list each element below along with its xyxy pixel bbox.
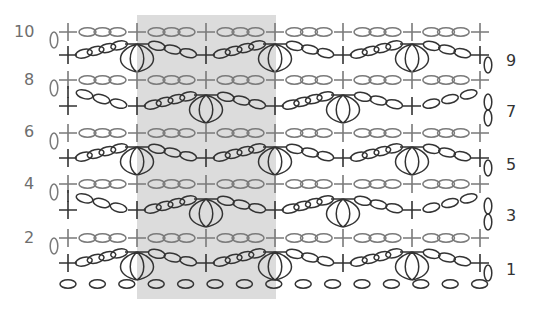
chain-symbol (385, 98, 403, 110)
single-crochet-symbol (471, 254, 489, 272)
shell-cluster-symbol (396, 252, 429, 280)
shell-cluster-symbol (396, 147, 429, 175)
single-crochet-symbol (334, 71, 352, 89)
chain-symbol (75, 256, 93, 268)
chain-symbol (373, 250, 391, 262)
turning-chain-symbol (484, 160, 492, 176)
chain-symbol (373, 145, 391, 157)
chain-symbol (441, 93, 460, 105)
chain-symbol (285, 143, 303, 155)
foundation-chain-symbol (119, 280, 135, 288)
single-crochet-symbol (403, 97, 421, 115)
single-crochet-symbol (59, 97, 77, 115)
single-crochet-symbol (59, 124, 77, 142)
chain-symbol (282, 203, 300, 215)
chain-symbol (293, 96, 311, 108)
chain-symbol (350, 151, 368, 163)
foundation-chain-symbol (325, 280, 341, 288)
chain-symbol (361, 148, 379, 160)
foundation-chain-symbol (383, 280, 399, 288)
shell-cluster-symbol (327, 95, 360, 123)
shell-cluster-symbol (396, 44, 429, 72)
foundation-chain-symbol (354, 280, 370, 288)
turning-chain-symbol (50, 238, 58, 254)
row-label-7: 7 (506, 104, 516, 120)
chain-symbol (75, 88, 94, 101)
turning-chain-symbol (484, 110, 492, 126)
turning-chain-symbol (484, 214, 492, 230)
single-crochet-symbol (403, 124, 421, 142)
chain-symbol (354, 91, 372, 103)
single-crochet-symbol (334, 46, 352, 64)
single-crochet-symbol (334, 23, 352, 41)
foundation-chain-symbol (442, 280, 458, 288)
chain-symbol (369, 198, 387, 210)
chain-symbol (75, 192, 94, 205)
turning-chain-symbol (484, 57, 492, 73)
foundation-chain-symbol (89, 280, 105, 288)
turning-chain-symbol (484, 265, 492, 281)
chain-symbol (453, 150, 471, 162)
chain-symbol (92, 93, 111, 106)
single-crochet-symbol (59, 254, 77, 272)
foundation-chain-symbol (60, 280, 76, 288)
single-crochet-symbol (334, 149, 352, 167)
chain-symbol (459, 192, 478, 204)
chain-symbol (453, 47, 471, 59)
chain-symbol (98, 145, 116, 157)
single-crochet-symbol (59, 201, 77, 219)
chain-symbol (109, 97, 128, 110)
chain-symbol (285, 248, 303, 260)
turning-chain-symbol (50, 32, 58, 48)
single-crochet-symbol (403, 23, 421, 41)
chain-symbol (438, 251, 456, 263)
chain-symbol (350, 256, 368, 268)
foundation-chain-symbol (295, 280, 311, 288)
single-crochet-symbol (334, 175, 352, 193)
row-label-4: 4 (24, 176, 34, 192)
row-label-3: 3 (506, 208, 516, 224)
single-crochet-symbol (471, 149, 489, 167)
single-crochet-symbol (471, 175, 489, 193)
single-crochet-symbol (59, 23, 77, 41)
chain-symbol (301, 43, 319, 55)
chain-symbol (75, 151, 93, 163)
row-label-1: 1 (506, 262, 516, 278)
row-label-9: 9 (506, 53, 516, 69)
single-crochet-symbol (471, 124, 489, 142)
single-crochet-symbol (59, 229, 77, 247)
single-crochet-symbol (59, 46, 77, 64)
chain-symbol (301, 251, 319, 263)
chain-symbol (438, 43, 456, 55)
chain-symbol (385, 202, 403, 214)
chain-symbol (98, 42, 116, 54)
chain-symbol (373, 42, 391, 54)
chain-symbol (316, 255, 334, 267)
single-crochet-symbol (334, 229, 352, 247)
chain-symbol (301, 146, 319, 158)
row-label-10: 10 (14, 24, 34, 40)
chain-symbol (361, 253, 379, 265)
chain-symbol (86, 148, 104, 160)
foundation-chain-symbol (472, 280, 488, 288)
foundation-chain-symbol (413, 280, 429, 288)
chain-symbol (350, 48, 368, 60)
single-crochet-symbol (471, 23, 489, 41)
single-crochet-symbol (471, 71, 489, 89)
chain-symbol (422, 143, 440, 155)
turning-chain-symbol (484, 94, 492, 110)
chain-symbol (438, 146, 456, 158)
single-crochet-symbol (403, 229, 421, 247)
chain-symbol (282, 99, 300, 111)
chain-symbol (354, 195, 372, 207)
crochet-chart (0, 0, 540, 312)
row-label-8: 8 (24, 72, 34, 88)
turning-chain-symbol (50, 184, 58, 200)
row-label-6: 6 (24, 124, 34, 140)
chain-symbol (422, 248, 440, 260)
chain-symbol (422, 98, 441, 110)
shell-cluster-symbol (327, 199, 360, 227)
chain-symbol (75, 48, 93, 60)
chain-symbol (293, 200, 311, 212)
single-crochet-symbol (403, 201, 421, 219)
